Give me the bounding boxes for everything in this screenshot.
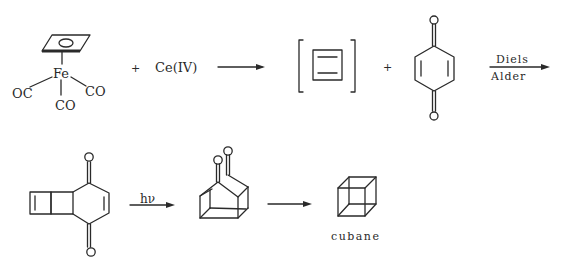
arrow-label-alder: Alder — [490, 70, 526, 83]
cubane-structure — [338, 177, 376, 216]
co-ligand-bottom: CO — [55, 98, 76, 113]
plus-sign-2: + — [383, 61, 392, 74]
co-ligand-right: CO — [85, 84, 106, 99]
reagent-ce-iv: Ce(IV) — [155, 60, 197, 75]
cage-diketone — [200, 147, 248, 218]
co-ligand-left: OC — [12, 86, 33, 101]
diels-alder-adduct — [30, 153, 109, 256]
reaction-arrow-3 — [268, 201, 312, 207]
fe-atom-label: Fe — [53, 66, 69, 81]
reaction-arrow-1 — [218, 64, 265, 70]
fe-co-bond-left — [30, 77, 52, 87]
arrow-label-hv: hν — [140, 192, 155, 206]
cyclobutadiene-ring-icon — [42, 35, 90, 51]
cyclobutadiene-intermediate — [299, 40, 355, 92]
plus-sign-1: + — [131, 62, 140, 75]
right-bracket — [351, 40, 355, 92]
photolysis-arrow: hν — [130, 192, 175, 208]
cyclobutadiene-square-icon — [313, 50, 342, 80]
left-bracket — [299, 40, 303, 92]
arrow-label-diels: Diels — [496, 53, 529, 66]
diels-alder-arrow: Diels Alder — [490, 53, 550, 83]
cubane-label: cubane — [331, 230, 380, 243]
reaction-scheme: Fe OC CO CO + Ce(IV) + Diels A — [0, 0, 568, 271]
iron-complex: Fe OC CO CO — [12, 35, 106, 113]
benzoquinone-structure — [415, 16, 454, 120]
fe-co-bond-right — [71, 77, 86, 86]
